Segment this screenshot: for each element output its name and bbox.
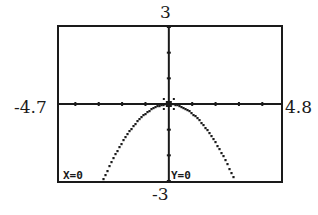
- y-readout: Y=0: [171, 169, 191, 182]
- x-readout: X=0: [63, 169, 83, 182]
- graph-screen: X=0 Y=0: [0, 0, 318, 215]
